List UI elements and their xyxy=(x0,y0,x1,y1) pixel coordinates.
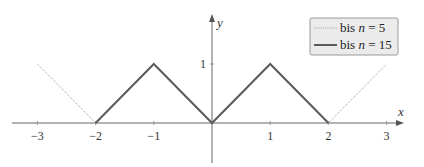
x-tick-label: −3 xyxy=(31,129,44,143)
legend-label-n15: bis n = 15 xyxy=(340,37,392,52)
y-axis-label: y xyxy=(215,15,223,30)
x-axis-arrow-icon xyxy=(396,120,404,126)
x-tick-label: 3 xyxy=(384,129,390,143)
x-axis-label: x xyxy=(397,104,404,119)
legend-label-n5: bis n = 5 xyxy=(340,20,385,35)
ticks: −3−2−11231 xyxy=(31,57,390,143)
y-axis-arrow-icon xyxy=(209,14,215,22)
y-tick-label: 1 xyxy=(200,57,206,71)
x-tick-label: −2 xyxy=(89,129,102,143)
chart: x y −3−2−11231 bis n = 5 bis n = 15 xyxy=(0,0,424,167)
x-tick-label: 1 xyxy=(267,129,273,143)
x-tick-label: 2 xyxy=(325,129,331,143)
legend: bis n = 5 bis n = 15 xyxy=(310,18,398,55)
x-tick-label: −1 xyxy=(147,129,160,143)
